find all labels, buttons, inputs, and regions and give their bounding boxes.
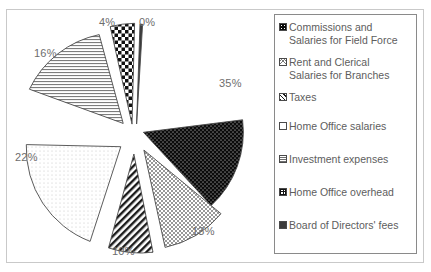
slice-label-13: 13% <box>192 225 215 237</box>
legend-item-home-office-salaries[interactable]: Home Office salaries <box>279 120 412 135</box>
chart-legend: Commissions and Salaries for Field Force… <box>274 14 417 254</box>
legend-label: Rent and Clerical Salaries for Branches <box>289 56 389 81</box>
black-dots-swatch <box>279 23 287 31</box>
legend-label: Investment expenses <box>289 153 388 166</box>
crosshatch-swatch <box>279 58 287 66</box>
legend-label: Home Office salaries <box>289 120 386 133</box>
chart-screenshot: 35% 13% 10% 22% 16% 4% 0% Commissions an… <box>0 0 431 272</box>
legend-item-home-office-overhead[interactable]: Home Office overhead <box>279 186 412 201</box>
pie-slice-home-office-salaries <box>26 145 121 242</box>
slice-label-4: 4% <box>99 16 115 28</box>
legend-item-commissions-salaries-field-force[interactable]: Commissions and Salaries for Field Force <box>279 21 412 51</box>
slice-label-22: 22% <box>15 151 38 163</box>
legend-label: Board of Directors' fees <box>289 219 398 232</box>
slice-label-0: 0% <box>139 16 155 28</box>
legend-item-board-of-directors-fees[interactable]: Board of Directors' fees <box>279 219 412 234</box>
pie-plot-area: 35% 13% 10% 22% 16% 4% 0% <box>6 9 262 263</box>
solid-dark-swatch <box>279 221 287 229</box>
pie-slice-taxes <box>109 154 154 253</box>
legend-label: Taxes <box>289 91 316 104</box>
slice-label-10: 10% <box>112 245 135 257</box>
plain-white-swatch <box>279 122 287 130</box>
diagonal-stripes-swatch <box>279 93 287 101</box>
checkerboard-swatch <box>279 188 287 196</box>
legend-item-taxes[interactable]: Taxes <box>279 91 412 106</box>
slice-label-35: 35% <box>219 77 242 89</box>
legend-item-rent-clerical-salaries-branches[interactable]: Rent and Clerical Salaries for Branches <box>279 56 412 86</box>
legend-list: Commissions and Salaries for Field Force… <box>275 15 416 253</box>
pie-slice-board-of-directors-fees <box>137 24 143 124</box>
legend-label: Home Office overhead <box>289 186 394 199</box>
horizontal-lines-swatch <box>279 155 287 163</box>
legend-item-investment-expenses[interactable]: Investment expenses <box>279 153 412 168</box>
legend-label: Commissions and Salaries for Field Force <box>289 21 398 46</box>
slice-label-16: 16% <box>34 47 57 59</box>
